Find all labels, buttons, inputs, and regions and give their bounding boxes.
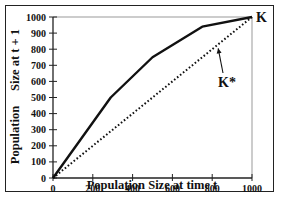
y-tick-label: 0 <box>41 173 46 184</box>
arrowhead-icon <box>217 48 222 53</box>
y-tick-label: 200 <box>31 140 46 151</box>
y-tick-label: 300 <box>31 124 46 135</box>
x-tick-label: 0 <box>51 183 56 194</box>
y-tick-label: 400 <box>31 108 46 119</box>
x-tick-label: 1000 <box>242 183 262 194</box>
y-tick-label: 600 <box>31 76 46 87</box>
x-axis-label: Population Size at time t <box>87 178 218 192</box>
y-axis-label-part1: Population <box>8 106 22 164</box>
chart-canvas: 0100200300400500600700800900100002004006… <box>0 0 286 204</box>
y-tick-label: 800 <box>31 44 46 55</box>
y-axis-label-part2: Size at t + 1 <box>8 29 22 91</box>
replacement-line <box>53 17 252 178</box>
y-tick-label: 100 <box>31 156 46 167</box>
annotations <box>217 48 223 73</box>
y-tick-label: 700 <box>31 60 46 71</box>
k-star-label: K* <box>218 75 236 90</box>
y-tick-label: 900 <box>31 28 46 39</box>
series-group <box>53 17 252 178</box>
y-tick-label: 1000 <box>26 12 46 23</box>
y-tick-label: 500 <box>31 92 46 103</box>
k-label: K <box>256 10 267 25</box>
